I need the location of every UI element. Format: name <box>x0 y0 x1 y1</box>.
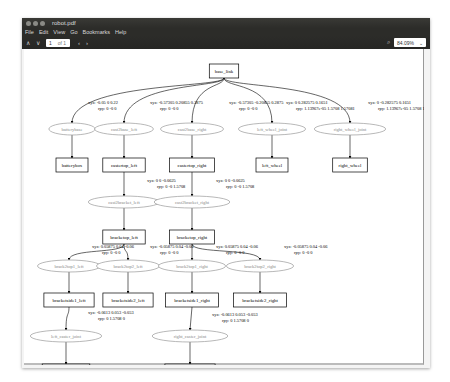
window-title: robot.pdf <box>52 20 76 26</box>
edge-xyz-label: xyz: 0.05875 0.04 -0.06 <box>92 244 135 249</box>
back-button[interactable]: ‹ <box>78 40 80 46</box>
joint-label: left_wheel_joint <box>257 127 288 132</box>
edge-rpy-label: rpy: 0 -0 0 <box>239 106 258 111</box>
edge-xyz-label: xyz: 0 0 -0.0625 <box>147 178 177 183</box>
edge-xyz-label: xyz: -0.05 0 0.22 <box>88 100 118 105</box>
menu-file[interactable]: File <box>25 29 34 35</box>
maximize-window-icon[interactable] <box>40 21 45 26</box>
joint-label: left_caster_joint <box>51 334 82 339</box>
edge-xyz-label: xyz: 0 0.282575 0.1651 <box>286 100 328 105</box>
zoom-value: 84.09% <box>397 40 414 46</box>
edge-rpy-label: rpy: 0 -0 1.5708 <box>226 184 255 189</box>
page-number-input[interactable]: 1 of 1 <box>46 39 70 47</box>
minimize-window-icon[interactable] <box>33 21 38 26</box>
chevron-down-icon: ⌄ <box>419 40 423 46</box>
edge-rpy-label: rpy: 0 1.5708 0 <box>222 318 250 323</box>
search-icon[interactable]: ⌕ <box>387 39 390 46</box>
joint-label: cast2bracket_right <box>175 200 210 205</box>
frame-label: castertop_right <box>178 163 207 168</box>
joint-label: brack2top2_right <box>244 264 276 269</box>
edge-rpy-label: rpy: 0 -0 0 <box>160 250 179 255</box>
edge-xyz-label: xyz: -0.0613 0.053 -0.053 <box>212 312 258 317</box>
edge-xyz-label: xyz: -0.05875 0.04 -0.06 <box>284 244 328 249</box>
edge-rpy-label: rpy: 1.13967e-05 1.5708 1.57081 <box>296 106 355 111</box>
joint-label: right_caster_joint <box>174 334 207 339</box>
menu-bar: File Edit View Go Bookmarks Help <box>22 28 430 36</box>
joint-label: batterybase <box>62 127 83 132</box>
edge-rpy-label: rpy: 0 1.5708 0 <box>98 316 126 321</box>
edge-rpy-label: rpy: 0 -0 0 <box>294 250 313 255</box>
edge-rpy-label: rpy: 0 -0 0 <box>102 250 121 255</box>
previous-page-button[interactable]: ∧ <box>26 39 30 46</box>
frame-label: base_link <box>215 69 234 74</box>
menu-edit[interactable]: Edit <box>39 29 48 35</box>
pdf-page: batterybasecast2base_leftcast2base_right… <box>24 49 424 365</box>
joint-label: right_wheel_joint <box>334 127 367 132</box>
edge-rpy-label: rpy: 0 -0 0 <box>98 106 117 111</box>
menu-help[interactable]: Help <box>115 29 126 35</box>
joint-label: brack2top1_left <box>54 264 84 269</box>
frame-label: right_wheel <box>339 163 363 168</box>
close-window-icon[interactable] <box>26 21 31 26</box>
menu-view[interactable]: View <box>53 29 65 35</box>
menu-go[interactable]: Go <box>70 29 77 35</box>
frame-label: batterybox <box>62 163 83 168</box>
document-area[interactable]: batterybasecast2base_leftcast2base_right… <box>22 49 430 368</box>
edge-xyz-label: xyz: 0 0 -0.0625 <box>216 178 246 183</box>
pdf-viewer-window: robot.pdf File Edit View Go Bookmarks He… <box>22 18 430 368</box>
page-total: of 1 <box>58 40 66 46</box>
joint-label: cast2base_right <box>178 127 207 132</box>
menu-bookmarks[interactable]: Bookmarks <box>83 29 111 35</box>
frame-label: bracketside2_right <box>242 298 278 303</box>
edge-xyz-label: xyz: 0.05875 0.04 -0.06 <box>216 244 259 249</box>
frame-label: bracketop_left <box>110 235 138 240</box>
joint-label: cast2bracket_left <box>108 200 140 205</box>
title-bar: robot.pdf <box>22 18 430 28</box>
frame-label: bracketside1_left <box>52 298 86 303</box>
joint-label: brack2top1_right <box>176 264 208 269</box>
zoom-select[interactable]: 84.09% ⌄ <box>394 38 426 47</box>
frame-node <box>165 364 215 365</box>
tf-frame-graph: batterybasecast2base_leftcast2base_right… <box>24 49 424 365</box>
edge-xyz-label: xyz: -0.57305 -0.20855 0.2875 <box>229 100 284 105</box>
edge-rpy-label: rpy: 0 -0 1.5708 <box>157 184 186 189</box>
frame-label: bracketop_right <box>177 235 208 240</box>
joint-label: cast2base_left <box>111 127 138 132</box>
next-page-button[interactable]: ∨ <box>36 39 40 46</box>
frame-label: left_wheel <box>262 163 283 168</box>
edge-rpy-label: rpy: 1.13967e-05 1.5708 1.57081 <box>378 106 424 111</box>
frame-label: bracketside1_right <box>174 298 210 303</box>
edge-xyz-label: xyz: -0.0613 0.053 -0.053 <box>88 310 134 315</box>
toolbar: ∧ ∨ 1 of 1 ‹ › ⌕ 84.09% ⌄ <box>22 36 430 49</box>
joint-label: brack2top2_left <box>113 264 143 269</box>
edge-xyz-label: xyz: -0.05875 0.04 -0.06 <box>150 244 194 249</box>
frame-node <box>42 364 90 365</box>
frame-label: castertop_left <box>111 163 138 168</box>
frame-label: bracketside2_left <box>111 298 145 303</box>
edge-rpy-label: rpy: 0 -0 0 <box>226 250 245 255</box>
edge-xyz-label: xyz: -0.57305 0.20855 0.2875 <box>150 100 204 105</box>
edge-rpy-label: rpy: 0 -0 0 <box>160 106 179 111</box>
forward-button[interactable]: › <box>86 40 88 46</box>
edge-xyz-label: xyz: 0 -0.282575 0.1651 <box>368 100 411 105</box>
page-current: 1 <box>49 40 52 46</box>
